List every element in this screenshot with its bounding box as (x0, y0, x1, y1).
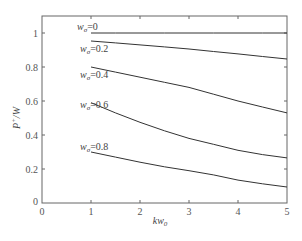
curves (91, 33, 287, 187)
y-tick-label: 0.4 (26, 130, 39, 141)
x-axis-label: kw0 (153, 215, 168, 228)
y-tick-label: 1 (33, 28, 38, 39)
curve-label-2: wσ=0.4 (80, 69, 108, 82)
curve-3 (91, 103, 287, 158)
x-tick-label: 0 (40, 206, 45, 217)
curve-1 (91, 41, 287, 59)
x-tick-label: 1 (89, 206, 94, 217)
x-tick-label: 5 (285, 206, 290, 217)
curve-label-4: wσ=0.8 (80, 141, 108, 154)
curve-2 (91, 67, 287, 113)
curve-4 (91, 152, 287, 187)
y-tick-label: 0.2 (26, 164, 39, 175)
curve-label-0: wσ=0 (77, 21, 98, 34)
y-tick-label: 0.6 (26, 96, 39, 107)
curve-label-1: wσ=0.2 (80, 43, 108, 56)
line-chart: 01234500.20.40.60.81 wσ=0wσ=0.2wσ=0.4wσ=… (0, 0, 302, 241)
curve-label-3: wσ=0.6 (80, 99, 108, 112)
x-tick-label: 4 (236, 206, 241, 217)
plot-frame (42, 16, 287, 203)
y-tick-label: 0.8 (26, 62, 39, 73)
x-tick-label: 3 (187, 206, 192, 217)
x-tick-label: 2 (138, 206, 143, 217)
y-axis-label: P+/W (10, 105, 22, 130)
y-tick-label: 0 (33, 196, 38, 207)
